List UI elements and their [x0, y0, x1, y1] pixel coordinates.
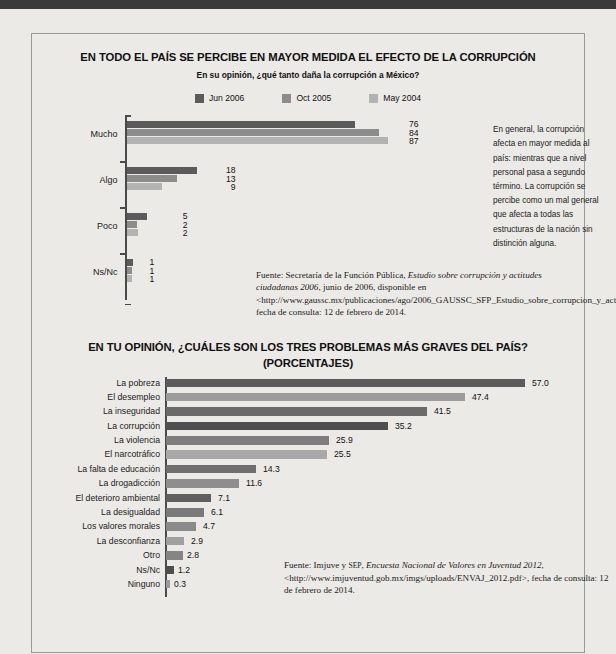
legend-label: Jun 2006 [209, 93, 244, 103]
chart1-value-label: 2 [168, 229, 188, 237]
chart2-category-label: Los valores morales [44, 521, 160, 531]
chart1-bar [127, 267, 132, 274]
chart1-value-label: 1 [150, 275, 160, 283]
chart2-bar [166, 551, 183, 560]
top-dark-band [0, 0, 616, 9]
chart2-row: Los valores morales 4.7 [44, 520, 572, 534]
chart2-category-label: La desigualdad [44, 507, 160, 517]
chart2-category-label: Otro [44, 550, 160, 560]
source-title: Encuesta Nacional de Valores en Juventud… [366, 560, 541, 570]
chart1-bar [127, 167, 197, 174]
chart2-category-label: El narcotráfico [44, 449, 160, 459]
chart2-bar [166, 436, 329, 445]
chart2-category-label: La corrupción [44, 421, 160, 431]
chart2-value-label: 11.6 [246, 478, 262, 488]
chart1-category-label: Ns/Nc [93, 267, 118, 277]
chart1-subtitle: En su opinión, ¿qué tanto daña la corrup… [44, 70, 572, 80]
chart2-row: La violencia 25.9 [44, 434, 572, 448]
chart1-bar [127, 183, 162, 190]
chart1-bar [127, 229, 138, 236]
chart1-axis-tick [120, 161, 125, 162]
chart2-value-label: 4.7 [203, 521, 215, 531]
legend-swatch-icon [369, 94, 378, 103]
source-prefix: Fuente: Imjuve y [284, 560, 348, 570]
chart2-value-label: 0.3 [174, 579, 186, 589]
chart2-bar [166, 508, 204, 517]
legend-label: May 2004 [383, 93, 421, 103]
chart2-bar [166, 537, 184, 546]
chart1-group-algo: Algo 18 13 9 [127, 167, 197, 191]
legend-item-jun-2006: Jun 2006 [195, 93, 244, 103]
chart2-category-label: La falta de educación [44, 464, 160, 474]
chart2-row: El deterioro ambiental 7.1 [44, 492, 572, 506]
chart1-source: Fuente: Secretaría de la Función Pública… [256, 269, 574, 318]
chart1-axis-cap-top [125, 115, 131, 117]
chart2-bar [166, 450, 327, 459]
chart1-category-label: Mucho [91, 129, 118, 139]
chart2-value-label: 25.9 [336, 435, 353, 445]
chart2-value-label: 2.8 [187, 550, 199, 560]
chart1-axis-cap-bottom [125, 304, 131, 306]
chart1-group-poco: Poco 5 2 2 [127, 213, 147, 237]
chart2-value-label: 7.1 [218, 493, 230, 503]
chart2-category-label: Ns/Nc [44, 565, 160, 575]
chart2-source: Fuente: Imjuve y sep, Encuesta Nacional … [284, 559, 614, 597]
chart2-subtitle: (PORCENTAJES) [44, 356, 572, 370]
chart1-category-label: Poco [97, 221, 118, 231]
legend-swatch-icon [282, 94, 291, 103]
chart2-plot-area: La pobreza 57.0 El desempleo 47.4 La ins… [44, 377, 572, 599]
chart1-value-label: 9 [216, 183, 236, 191]
legend-label: Oct 2005 [296, 93, 331, 103]
chart1-category-label: Algo [100, 175, 118, 185]
chart1-value-label: 87 [399, 137, 419, 145]
chart2-category-label: La inseguridad [44, 406, 160, 416]
chart2-category-label: La pobreza [44, 378, 160, 388]
chart1-bar [127, 129, 379, 136]
chart2-category-label: El deterioro ambiental [44, 493, 160, 503]
chart2-bar [166, 566, 174, 575]
chart2-value-label: 6.1 [211, 507, 223, 517]
chart2-value-label: 14.3 [263, 464, 280, 474]
chart2-row: La falta de educación 14.3 [44, 463, 572, 477]
page-canvas: EN TODO EL PAÍS SE PERCIBE EN MAYOR MEDI… [0, 9, 616, 654]
chart2-title: EN TU OPINIÓN, ¿CUÁLES SON LOS TRES PROB… [44, 340, 572, 354]
chart1-bar [127, 121, 355, 128]
chart2-bar [166, 494, 211, 503]
chart2-row: El desempleo 47.4 [44, 391, 572, 405]
chart1-axis-tick [120, 253, 125, 254]
chart1-bar [127, 259, 133, 266]
chart2-value-label: 47.4 [472, 392, 489, 402]
chart2-row: La corrupción 35.2 [44, 420, 572, 434]
chart2-row: La drogadicción 11.6 [44, 477, 572, 491]
chart1-side-note: En general, la corrupción afecta en mayo… [493, 123, 601, 251]
chart2-bar [166, 465, 256, 474]
chart2-category-label: La drogadicción [44, 478, 160, 488]
chart1-group-mucho: Mucho 76 84 87 [127, 121, 388, 145]
chart1-bar [127, 213, 147, 220]
chart2-value-label: 41.5 [434, 406, 451, 416]
chart1-bar [127, 221, 137, 228]
chart1-bar [127, 275, 132, 282]
chart1-bar [127, 175, 177, 182]
chart1-legend: Jun 2006 Oct 2005 May 2004 [44, 93, 572, 103]
chart2-row: La pobreza 57.0 [44, 377, 572, 391]
chart2-value-label: 25.5 [334, 449, 351, 459]
chart1-axis-tick [120, 207, 125, 208]
chart1-title: EN TODO EL PAÍS SE PERCIBE EN MAYOR MEDI… [44, 50, 572, 64]
chart1-group-nsnc: Ns/Nc 1 1 1 [127, 259, 133, 283]
chart2-row: La desigualdad 6.1 [44, 506, 572, 520]
chart2-category-label: El desempleo [44, 392, 160, 402]
chart2-category-label: La violencia [44, 435, 160, 445]
chart2-bar [166, 522, 196, 531]
chart2-bar [166, 393, 465, 402]
chart2-bar [166, 407, 427, 416]
chart2-category-label: Ninguno [44, 579, 160, 589]
chart2-value-label: 57.0 [532, 378, 549, 388]
chart1-bar [127, 137, 388, 144]
chart2-bar [166, 379, 525, 388]
chart2-category-label: La desconfianza [44, 536, 160, 546]
chart2-value-label: 1.2 [178, 565, 190, 575]
source-prefix: Fuente: Secretaría de la Función Pública… [256, 270, 408, 280]
chart2-value-label: 2.9 [191, 536, 203, 546]
chart2-bar [166, 479, 239, 488]
